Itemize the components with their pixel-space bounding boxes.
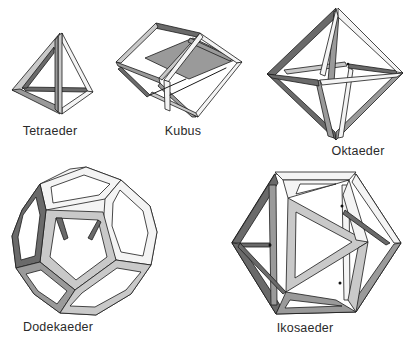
tetraeder-drawing: [12, 33, 93, 114]
platonic-solids-figure: [0, 0, 413, 344]
label-tetraeder: Tetraeder: [23, 124, 78, 138]
label-ikosaeder: Ikosaeder: [277, 321, 334, 335]
kubus-drawing: [116, 23, 242, 117]
ikosaeder-drawing: [232, 172, 401, 314]
oktaeder-drawing: [267, 8, 403, 140]
label-oktaeder: Oktaeder: [331, 144, 384, 158]
label-kubus: Kubus: [165, 124, 201, 138]
label-dodekaeder: Dodekaeder: [23, 320, 93, 334]
dodekaeder-drawing: [12, 167, 157, 315]
